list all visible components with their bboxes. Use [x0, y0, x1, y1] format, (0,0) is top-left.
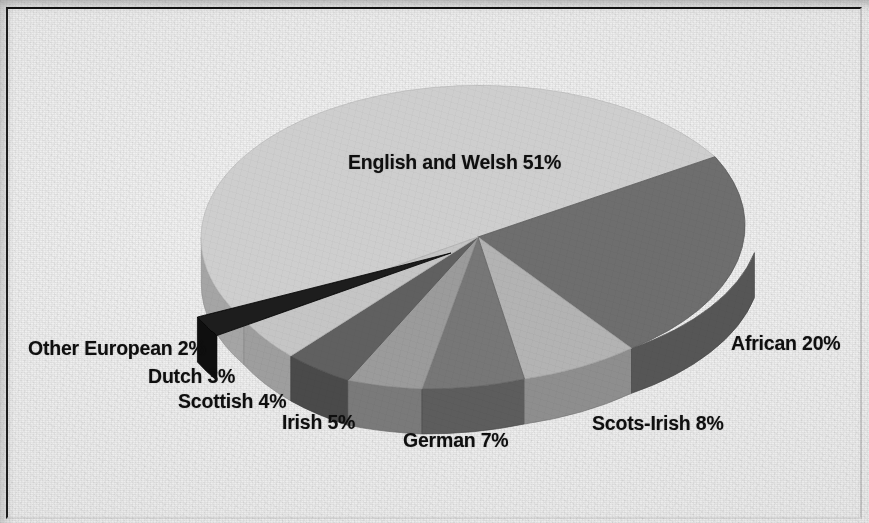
label-scottish: Scottish 4%	[178, 392, 286, 412]
scanned-figure-page: English and Welsh 51% African 20% Scots-…	[0, 0, 869, 523]
label-irish: Irish 5%	[282, 413, 355, 433]
label-english-and-welsh: English and Welsh 51%	[348, 153, 561, 173]
label-other-european: Other European 2%	[28, 339, 206, 359]
pie-chart: English and Welsh 51% African 20% Scots-…	[0, 0, 869, 523]
label-african: African 20%	[731, 334, 840, 354]
label-dutch: Dutch 3%	[148, 367, 235, 387]
label-german: German 7%	[403, 431, 509, 451]
label-scots-irish: Scots-Irish 8%	[592, 414, 724, 434]
